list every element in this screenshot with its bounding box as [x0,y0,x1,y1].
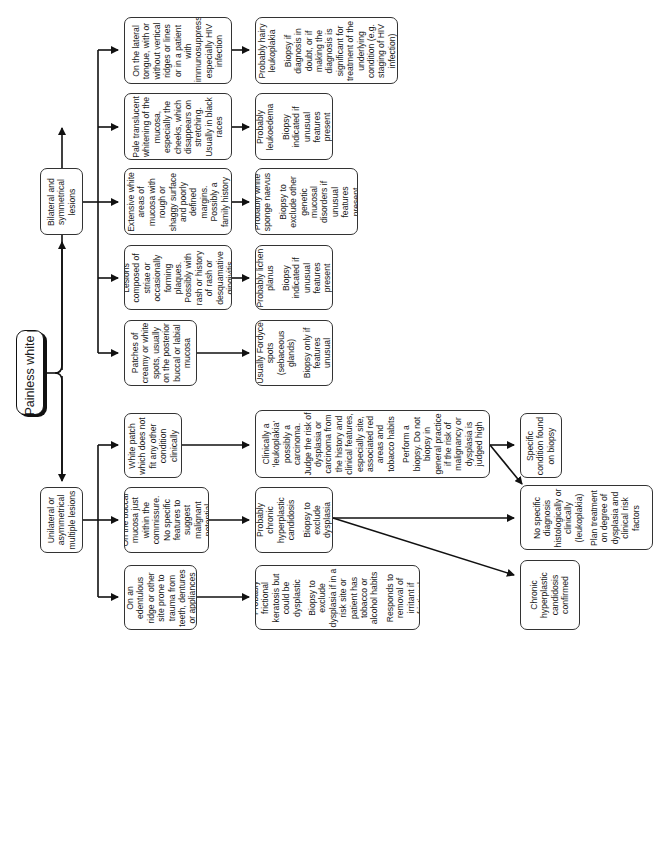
diagnosis-leukoedema: Probably leukoedema Biopsy indicated if … [255,93,333,160]
finding-fordyce-spots: Patches of creamy or white spots, usuall… [124,320,197,386]
finding-text: On an edentulous ridge or other site pro… [124,567,197,629]
finding-text: On the buccal mucosa just within the com… [124,489,209,551]
outcome-candidosis-confirmed: Chronic hyperplastic candidosis confirme… [520,560,580,630]
diagnosis-advice: Biopsy to exclude dysplasia [302,489,333,551]
finding-leukoedema: Pale translucent whitening of the mucosa… [124,93,232,160]
outcome-text: Chronic hyperplastic candidosis confirme… [529,564,571,626]
outcome-text: Specific condition found on biopsy [525,416,556,476]
finding-text: Extensive white areas of mucosa with rou… [126,171,230,233]
unilateral-label: Unilateral or asymmetrical multiple lesi… [46,490,77,550]
bilateral-node: Bilateral and symmetrical lesions [40,168,83,235]
finding-unclassified-white-patch: White patch which does not fit any other… [124,413,182,478]
diagnosis-lichen-planus: Probably lichen planus Biopsy indicated … [255,245,333,310]
diagnosis-advice: Biopsy indicated if unusual features pre… [281,248,333,308]
diagnosis-text: Usually Fordyce spots (sebaceous glands) [255,322,297,384]
diagnosis-hairy-leukoplakia: Probably hairy leukoplakia Biopsy if dia… [255,17,398,84]
diagnosis-frictional-keratosis: Probably frictional keratosis but could … [255,565,420,630]
diagnosis-text: Probably white sponge naevus [255,171,273,233]
bilateral-label: Bilateral and symmetrical lesions [46,172,77,232]
finding-hairy-leukoplakia: On the lateral tongue, with or without v… [124,17,232,84]
root-node: Painless white patches [16,330,44,415]
diagnosis-leukoplakia: Clinically a 'leukoplakia' possibly a ca… [255,410,490,478]
finding-lichen-planus: Lesions composed of striae or occasional… [124,245,232,310]
outcome-text: No specific diagnosis histologically or … [532,487,584,549]
diagnosis-fordyce-spots: Usually Fordyce spots (sebaceous glands)… [255,320,333,386]
finding-text: Patches of creamy or white spots, usuall… [129,322,191,384]
finding-text: White patch which does not fit any other… [127,416,179,476]
diagnosis-note: Responds to removal of irritant if frict… [384,567,420,629]
finding-text: Pale translucent whitening of the mucosa… [131,96,225,158]
root-label: Painless white patches [23,330,37,415]
finding-white-sponge-naevus: Extensive white areas of mucosa with rou… [124,168,232,235]
unilateral-node: Unilateral or asymmetrical multiple lesi… [40,487,83,553]
diagnosis-advice: Biopsy to exclude other genetic mucosal … [278,171,358,233]
diagnosis-text: Probably lichen planus [255,248,276,308]
diagnosis-advice: Biopsy only if features unusual [302,322,333,384]
diagnosis-advice: Biopsy indicated if unusual features pre… [281,96,333,158]
diagnosis-text: Probably frictional keratosis but could … [255,567,301,629]
finding-buccal-commissure: On the buccal mucosa just within the com… [124,487,209,553]
diagnosis-chronic-hyperplastic-candidosis: Probably chronic hyperplastic candidosis… [255,487,333,553]
diagnosis-text: Clinically a 'leukoplakia' possibly a ca… [261,412,396,476]
diagnosis-text: Probably hairy leukoplakia [256,20,277,82]
outcome-specific-condition: Specific condition found on biopsy [520,413,562,478]
diagnosis-text: Probably chronic hyperplastic candidosis [255,489,297,551]
finding-text: Lesions composed of striae or occasional… [124,247,232,309]
diagnosis-advice: Biopsy if diagnosis in doubt, or if maki… [282,20,396,82]
diagnosis-advice: Biopsy to exclude dysplasia if in a risk… [306,567,379,629]
finding-text: On the lateral tongue, with or without v… [131,20,225,82]
diagnosis-white-sponge-naevus: Probably white sponge naevus Biopsy to e… [255,168,358,235]
finding-edentulous-ridge: On an edentulous ridge or other site pro… [124,565,197,630]
flowchart: Painless white patches Bilateral and sym… [0,0,657,850]
diagnosis-advice: Perform a biopsy. Do not biopsy in gener… [401,412,484,476]
diagnosis-text: Probably leukoedema [255,96,276,158]
outcome-advice: Plan treatment on degree of dysplasia an… [589,487,641,549]
outcome-no-specific-diagnosis: No specific diagnosis histologically or … [520,485,653,550]
